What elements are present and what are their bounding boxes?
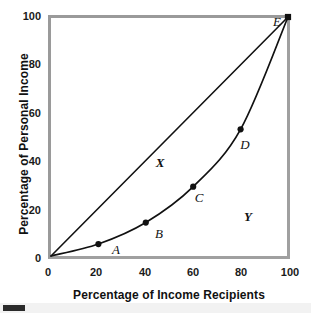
x-tick-20: 20 [90,266,102,278]
data-point-b [143,219,149,225]
x-tick-60: 60 [187,266,199,278]
y-tick-100: 100 [8,10,41,22]
page-bottom-strip [0,303,311,313]
x-tick-0: 0 [45,266,51,278]
region-label-x: X [156,155,165,171]
point-label-c: C [195,190,204,206]
line-of-equality [51,17,288,256]
page-bottom-marker [3,305,25,311]
lorenz-curve-figure: 100 80 60 40 20 0 0 20 40 60 80 100 Perc… [0,0,311,313]
data-point-d [238,126,244,132]
data-point-e [285,14,291,20]
x-tick-40: 40 [139,266,151,278]
y-axis-title: Percentage of Personal Income [17,24,31,264]
point-label-e: E [273,14,281,30]
x-axis-title: Percentage of Income Recipients [48,288,290,302]
data-point-c [190,184,196,190]
point-label-b: B [155,226,163,242]
point-label-a: A [112,242,120,258]
region-label-y: Y [244,209,252,225]
point-label-d: D [240,137,249,153]
x-tick-80: 80 [235,266,247,278]
data-point-a [95,241,101,247]
x-tick-100: 100 [281,266,299,278]
